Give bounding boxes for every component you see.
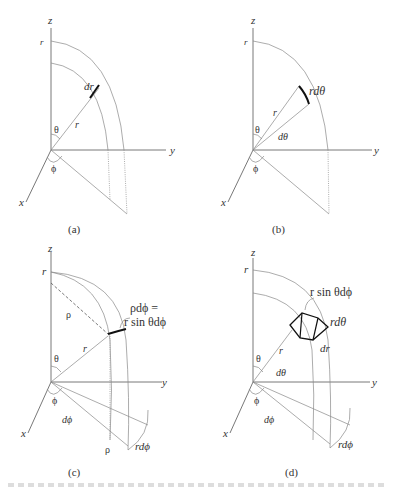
r-top-label: r [40,37,44,47]
radius-line [51,336,108,382]
x-label: x [222,427,228,439]
phi-label: ϕ [51,163,56,174]
outer-drop [124,150,127,214]
volume-edge-1 [300,313,302,338]
r-label: r [75,119,79,130]
drop [328,150,329,214]
theta-arc [51,366,61,372]
inner-arc [51,63,108,150]
phi-label: ϕ [254,395,259,406]
theta-label: θ [255,124,260,135]
theta-label: θ [54,124,59,135]
r-top-label: r [244,263,249,275]
theta-label: θ [54,353,59,364]
element-label: r sin θdϕ [310,285,352,299]
panel-d: z y x r r θ ϕ dθ dϕ rdϕ rdθ dr r sin θdϕ… [222,246,377,479]
callout-curve [305,298,314,310]
dtheta-label: dθ [276,367,286,378]
dphi-label: dϕ [62,414,72,425]
y-label: y [161,376,167,388]
z-label: z [47,14,53,26]
x-label: x [220,196,226,208]
dr-label: dr [84,80,95,92]
y-label: y [169,144,175,156]
y-label: y [371,376,377,388]
caption-c: (c) [68,466,81,479]
inner-drop [108,150,110,200]
theta-label: θ [256,353,261,364]
r-label: r [273,107,277,118]
rho-label: ρ [66,309,71,320]
r-label: r [83,343,87,354]
phi-label: ϕ [253,163,258,174]
z-label: z [47,242,53,254]
x-label: x [20,427,26,439]
dphi-label: dϕ [264,414,274,425]
rdtheta-label: rdθ [309,84,325,98]
r-label: r [279,345,283,356]
panel-c: z y x r r ρ θ ϕ dϕ ρ rdϕ ρdϕ = r sin θdϕ… [20,242,167,479]
inner-meridian [51,272,112,440]
cutoff-caption-text [8,483,388,487]
rdphi-label: rdϕ [135,440,150,452]
z-label: z [250,246,256,258]
rho-dashed-line [51,283,108,334]
panel-a: z y x r r θ ϕ dr (a) [18,14,175,236]
rho-bottom-label: ρ [105,444,110,455]
projection-line-1 [253,382,330,444]
dtheta-label: dθ [278,131,288,142]
r-top-label: r [244,37,248,47]
panel-b: z y x r r θ ϕ dθ rdθ (b) [220,14,379,236]
projection-line [51,150,127,214]
outer-arc [51,41,124,150]
projection-line [253,150,329,214]
z-label: z [250,14,256,26]
caption-b: (b) [272,223,285,236]
rdphi-label: rdϕ [338,438,353,450]
rhodphi-element [108,329,126,334]
rdtheta-label: rdθ [330,315,346,329]
element-label-1: ρdϕ = [130,301,158,315]
dr-label: dr [320,342,331,354]
r-top-label: r [42,265,47,277]
y-label: y [373,144,379,156]
spherical-coordinates-figure: z y x r r θ ϕ dr (a) z y x r r θ ϕ dθ rd… [0,0,393,490]
x-label: x [18,196,24,208]
caption-a: (a) [68,223,81,236]
element-label-2: r sin θdϕ [124,315,166,329]
phi-label: ϕ [52,395,57,406]
caption-d: (d) [285,466,298,479]
rdtheta-element [299,86,309,104]
